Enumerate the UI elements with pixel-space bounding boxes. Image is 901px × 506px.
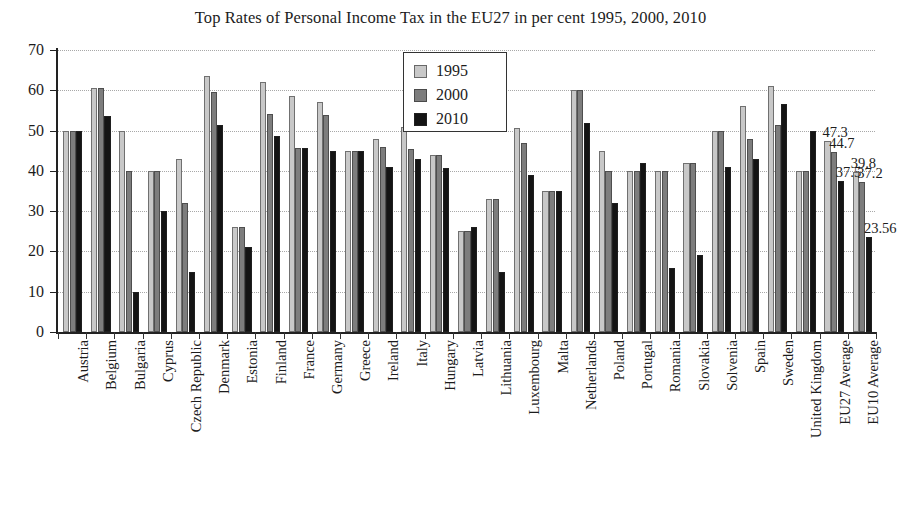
bar[interactable]	[838, 181, 844, 332]
x-axis-category-label: France	[302, 340, 317, 379]
bar[interactable]	[373, 139, 379, 332]
bar[interactable]	[443, 168, 449, 332]
bar[interactable]	[189, 272, 195, 332]
bar[interactable]	[640, 163, 646, 332]
bar[interactable]	[747, 139, 753, 332]
bar[interactable]	[556, 191, 562, 332]
bar[interactable]	[768, 86, 774, 332]
bar[interactable]	[577, 90, 583, 332]
bar[interactable]	[161, 211, 167, 332]
bar[interactable]	[549, 191, 555, 332]
bar[interactable]	[302, 148, 308, 333]
bar[interactable]	[232, 227, 238, 332]
bar[interactable]	[176, 159, 182, 332]
bar[interactable]	[239, 227, 245, 332]
bar-value-label: 44.7	[829, 136, 854, 151]
bar[interactable]	[753, 159, 759, 332]
bar[interactable]	[584, 123, 590, 332]
bar[interactable]	[119, 131, 125, 332]
bar[interactable]	[725, 167, 731, 332]
bar[interactable]	[471, 227, 477, 332]
bar[interactable]	[853, 172, 859, 332]
bar[interactable]	[859, 182, 865, 332]
bar[interactable]	[866, 237, 872, 332]
bar[interactable]	[63, 131, 69, 332]
bar[interactable]	[669, 268, 675, 332]
bar[interactable]	[415, 159, 421, 332]
chart-title: Top Rates of Personal Income Tax in the …	[0, 8, 901, 28]
bar[interactable]	[345, 151, 351, 332]
bar[interactable]	[133, 292, 139, 332]
bar[interactable]	[803, 171, 809, 332]
bar[interactable]	[91, 88, 97, 332]
x-axis-tick	[538, 332, 539, 339]
bar[interactable]	[380, 147, 386, 332]
bar[interactable]	[358, 151, 364, 332]
bar[interactable]	[430, 155, 436, 332]
bar[interactable]	[76, 131, 82, 332]
bar[interactable]	[323, 115, 329, 332]
bar[interactable]	[245, 247, 251, 332]
bar-group	[345, 50, 364, 332]
bar[interactable]	[126, 171, 132, 332]
bar[interactable]	[824, 141, 830, 332]
bar[interactable]	[599, 151, 605, 332]
bar[interactable]	[571, 90, 577, 332]
bar[interactable]	[605, 171, 611, 332]
bar[interactable]	[627, 171, 633, 332]
x-axis-tick	[735, 332, 736, 339]
bar[interactable]	[810, 131, 816, 332]
y-axis-tick-label: 30	[0, 203, 44, 219]
bar[interactable]	[542, 191, 548, 332]
bar[interactable]	[740, 106, 746, 332]
bar[interactable]	[98, 88, 104, 332]
bar[interactable]	[436, 155, 442, 332]
bar[interactable]	[486, 199, 492, 332]
bar[interactable]	[712, 131, 718, 332]
bar[interactable]	[796, 171, 802, 332]
bar[interactable]	[690, 163, 696, 332]
bar[interactable]	[352, 151, 358, 332]
bar[interactable]	[683, 163, 689, 332]
bar[interactable]	[464, 231, 470, 332]
bar[interactable]	[521, 143, 527, 332]
bar[interactable]	[655, 171, 661, 332]
bar[interactable]	[612, 203, 618, 332]
bar[interactable]	[317, 102, 323, 332]
bar[interactable]	[182, 203, 188, 332]
bar[interactable]	[528, 175, 534, 332]
bar[interactable]	[154, 171, 160, 332]
legend-item[interactable]: 2010	[414, 107, 506, 131]
bar[interactable]	[104, 116, 110, 332]
legend-item[interactable]: 2000	[414, 83, 506, 107]
bar-group	[712, 50, 731, 332]
bar[interactable]	[781, 104, 787, 332]
bar[interactable]	[634, 171, 640, 332]
bar[interactable]	[514, 128, 520, 332]
bar[interactable]	[718, 131, 724, 332]
bar[interactable]	[204, 76, 210, 332]
bar[interactable]	[458, 231, 464, 332]
bar[interactable]	[386, 167, 392, 332]
bar[interactable]	[295, 148, 301, 333]
bar[interactable]	[211, 92, 217, 333]
x-axis-tick	[255, 332, 256, 339]
bar[interactable]	[70, 131, 76, 332]
bar[interactable]	[289, 96, 295, 332]
bar[interactable]	[499, 272, 505, 332]
bar[interactable]	[274, 136, 280, 332]
bar-group	[768, 50, 787, 332]
bar[interactable]	[267, 114, 273, 332]
bar[interactable]	[775, 125, 781, 332]
bar[interactable]	[662, 171, 668, 332]
x-axis-category-label: Cyprus	[161, 340, 176, 382]
legend-item[interactable]: 1995	[414, 59, 506, 83]
bar[interactable]	[697, 255, 703, 332]
bar[interactable]	[493, 199, 499, 332]
bar[interactable]	[330, 151, 336, 332]
bar[interactable]	[148, 171, 154, 332]
bar[interactable]	[217, 125, 223, 332]
bar[interactable]	[401, 127, 407, 332]
bar[interactable]	[408, 149, 414, 332]
bar[interactable]	[260, 82, 266, 332]
